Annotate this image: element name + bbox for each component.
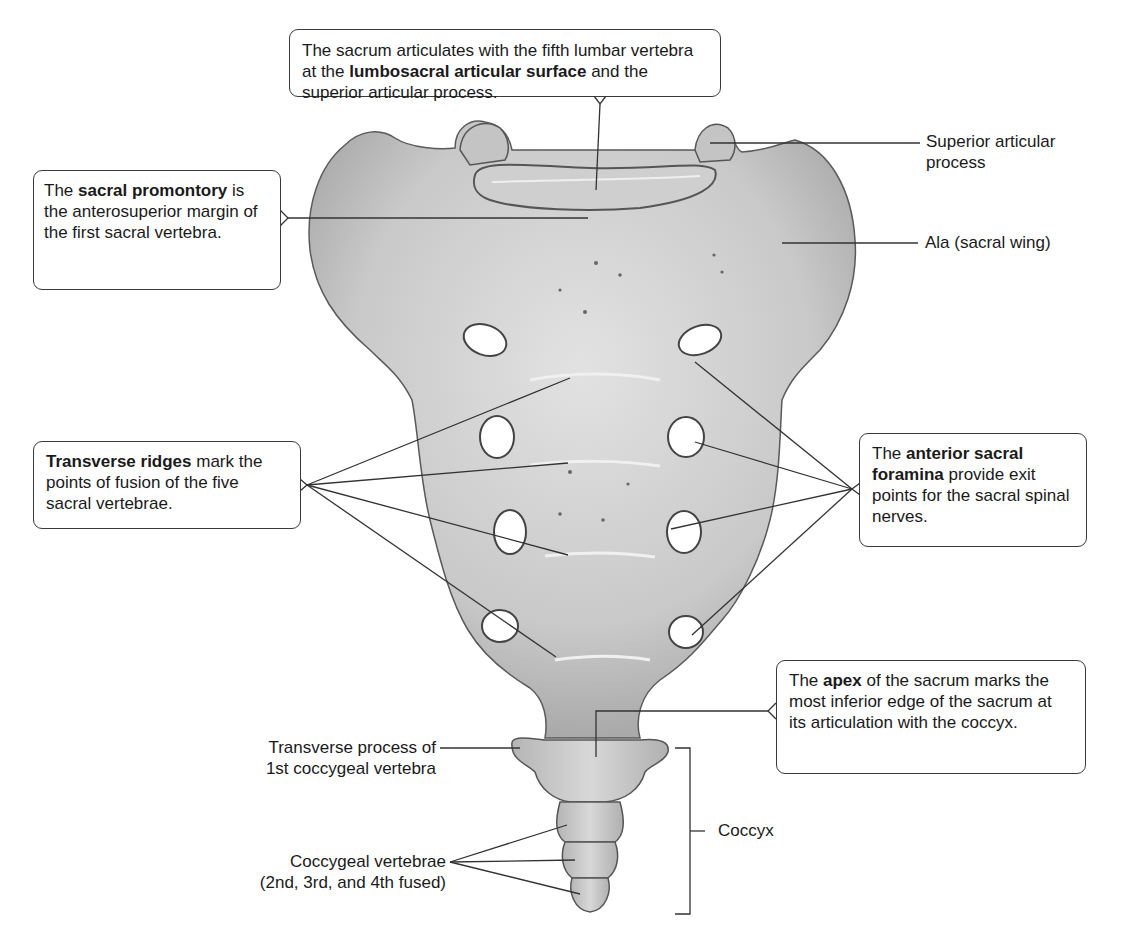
label-line: Ala (sacral wing) <box>925 233 1051 252</box>
first-coccygeal-vertebra <box>512 738 668 802</box>
callout-term: lumbosacral articular surface <box>349 62 586 81</box>
callout-apex: The apex of the sacrum marks the most in… <box>776 660 1086 774</box>
label-line: (2nd, 3rd, and 4th fused) <box>220 872 446 893</box>
label-line: 1st coccygeal vertebra <box>236 758 436 779</box>
callout-anterior-sacral-foramina: The anterior sacral foramina provide exi… <box>859 433 1087 547</box>
callout-text: The <box>872 444 906 463</box>
callout-sacral-promontory: The sacral promontory is the anterosuper… <box>33 170 281 290</box>
label-line: Superior articular <box>926 131 1055 152</box>
label-line: Coccygeal vertebrae <box>220 851 446 872</box>
label-line: Coccyx <box>718 821 774 840</box>
callout-term: apex <box>823 671 862 690</box>
callout-text: The <box>789 671 823 690</box>
label-transverse-process: Transverse process of 1st coccygeal vert… <box>236 737 436 779</box>
callout-text: The <box>44 181 78 200</box>
label-line: Transverse process of <box>236 737 436 758</box>
label-superior-articular-process: Superior articular process <box>926 131 1055 173</box>
label-coccygeal-vertebrae: Coccygeal vertebrae (2nd, 3rd, and 4th f… <box>220 851 446 893</box>
callout-lumbosacral-surface: The sacrum articulates with the fifth lu… <box>289 29 721 97</box>
label-coccyx: Coccyx <box>718 820 774 841</box>
label-line: process <box>926 152 1055 173</box>
coccygeal-vertebra-2 <box>557 802 624 842</box>
callout-term: sacral promontory <box>78 181 227 200</box>
sacrum-body <box>309 121 855 738</box>
coccygeal-vertebra-4 <box>571 878 609 912</box>
label-ala: Ala (sacral wing) <box>925 232 1051 253</box>
callout-term: Transverse ridges <box>46 452 192 471</box>
callout-transverse-ridges: Transverse ridges mark the points of fus… <box>33 441 301 529</box>
